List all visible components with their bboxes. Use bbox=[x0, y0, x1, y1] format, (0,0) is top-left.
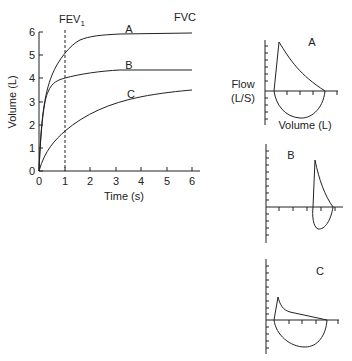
x-axis-label: Time (s) bbox=[104, 190, 144, 202]
volume-label: Volume (L) bbox=[278, 119, 331, 131]
y-axis-label: Volume (L) bbox=[6, 75, 18, 128]
y-tick-label: 3 bbox=[29, 96, 35, 108]
curve-b bbox=[39, 70, 192, 171]
x-tick-label: 2 bbox=[87, 175, 93, 187]
curve-b-label: B bbox=[125, 59, 132, 71]
loop-a-curve bbox=[274, 42, 325, 118]
curve-c bbox=[39, 90, 192, 171]
y-tick-label: 1 bbox=[29, 142, 35, 154]
flow-volume-loop-a bbox=[265, 40, 338, 125]
flow-label: Flow bbox=[231, 78, 254, 90]
y-tick-label: 2 bbox=[29, 119, 35, 131]
loop-b-label: B bbox=[287, 149, 294, 161]
flow-volume-loop-b bbox=[266, 144, 343, 243]
curve-a-label: A bbox=[125, 23, 133, 35]
figure: 0 1 2 3 4 5 6 0 1 2 3 4 5 6 Time (s) Vol… bbox=[0, 0, 352, 361]
x-tick-label: 3 bbox=[113, 175, 119, 187]
x-tick-label: 4 bbox=[138, 175, 144, 187]
y-tick-label: 6 bbox=[29, 26, 35, 38]
loop-c-curve bbox=[274, 297, 327, 347]
curve-c-label: C bbox=[127, 88, 135, 100]
x-tick-label: 0 bbox=[36, 175, 42, 187]
loop-b-curve bbox=[313, 160, 333, 229]
x-tick-label: 1 bbox=[62, 175, 68, 187]
y-tick-label: 4 bbox=[29, 72, 35, 84]
volume-time-labels: 0 1 2 3 4 5 6 0 1 2 3 4 5 6 Time (s) Vol… bbox=[6, 11, 196, 202]
y-tick-label: 5 bbox=[29, 49, 35, 61]
x-tick-label: 5 bbox=[164, 175, 170, 187]
volume-time-chart bbox=[39, 30, 200, 171]
flow-unit-label: (L/S) bbox=[231, 92, 255, 104]
curve-a bbox=[39, 33, 192, 171]
loop-a-label: A bbox=[308, 36, 316, 48]
x-tick-label: 6 bbox=[189, 175, 195, 187]
loop-a-labels: A Flow (L/S) Volume (L) bbox=[231, 36, 332, 131]
fev1-label: FEV1 bbox=[59, 13, 85, 28]
y-tick-label: 0 bbox=[29, 165, 35, 177]
fvc-label: FVC bbox=[174, 11, 196, 23]
loop-c-label: C bbox=[316, 265, 324, 277]
flow-volume-loop-c bbox=[266, 259, 339, 354]
